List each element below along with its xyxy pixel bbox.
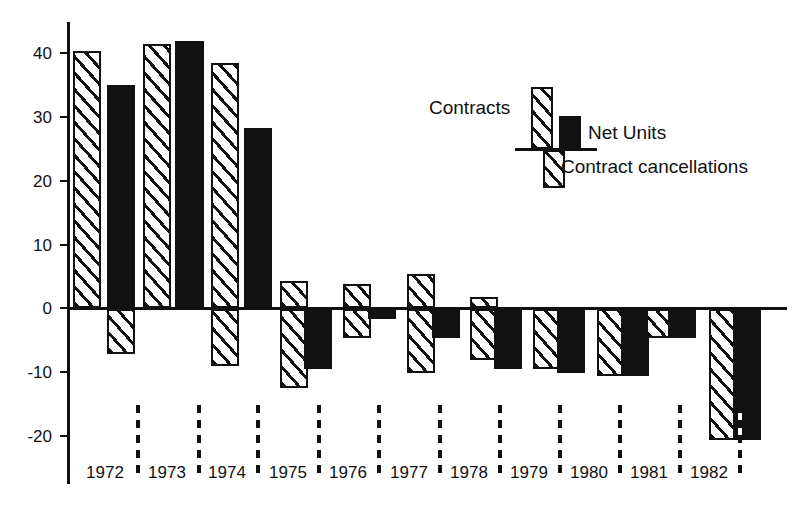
y-tick-mark-10 (60, 244, 69, 246)
bar-1973-net-units (175, 41, 204, 308)
bar-1981-net-units (668, 309, 696, 338)
legend-swatch-net-units (559, 116, 581, 149)
y-axis-line (67, 22, 70, 484)
x-tick-label-1973: 1973 (139, 464, 195, 481)
y-tick-mark-minus10 (60, 371, 69, 373)
x-tick-label-1982: 1982 (681, 464, 737, 481)
y-tick-mark-0 (60, 307, 69, 309)
bar-1978-contracts (470, 297, 498, 308)
bar-1978-net-units (494, 309, 522, 369)
y-tick-label-10: 10 (0, 237, 52, 254)
x-tick-label-1972: 1972 (77, 464, 133, 481)
y-tick-label-minus10: -10 (0, 364, 52, 381)
x-tick-label-1974: 1974 (199, 464, 255, 481)
x-tick-label-1977: 1977 (381, 464, 437, 481)
bar-1976-net-units (368, 309, 396, 319)
bar-1977-contracts (407, 274, 435, 308)
legend-label-cancellations: Contract cancellations (561, 157, 748, 177)
bar-1974-cancellations (211, 309, 239, 366)
bar-1979-net-units (557, 309, 585, 373)
bar-1976-contracts (343, 284, 371, 308)
year-separator (738, 405, 742, 477)
bar-1977-net-units (432, 309, 460, 338)
bar-1977-cancellations (407, 309, 435, 373)
legend-label-contracts: Contracts (429, 98, 510, 118)
y-tick-mark-20 (60, 180, 69, 182)
y-tick-mark-minus20 (60, 435, 69, 437)
legend-swatch-contracts (531, 87, 553, 149)
bar-1973-contracts (143, 44, 171, 308)
x-tick-label-1979: 1979 (501, 464, 557, 481)
bar-chart: 40 30 20 10 0 -10 -20 (0, 0, 812, 517)
y-tick-mark-40 (60, 52, 69, 54)
bar-1976-cancellations (343, 309, 371, 338)
bar-1972-net-units (107, 85, 135, 308)
legend-label-net-units: Net Units (588, 123, 666, 143)
x-tick-label-1978: 1978 (441, 464, 497, 481)
x-tick-label-1976: 1976 (320, 464, 376, 481)
bar-1974-contracts (211, 63, 239, 308)
bar-1972-cancellations (107, 309, 135, 354)
y-tick-mark-30 (60, 116, 69, 118)
bar-1975-contracts (280, 281, 308, 308)
bar-1975-net-units (304, 309, 332, 369)
y-tick-label-minus20: -20 (0, 428, 52, 445)
legend: Contracts Net Units Contract cancellatio… (430, 78, 812, 198)
y-tick-label-20: 20 (0, 173, 52, 190)
x-tick-label-1980: 1980 (561, 464, 617, 481)
bar-1972-contracts (73, 51, 101, 308)
bar-1974-net-units (244, 128, 272, 308)
y-tick-label-0: 0 (0, 300, 52, 317)
x-tick-label-1975: 1975 (260, 464, 316, 481)
bar-1980-net-units (621, 309, 649, 376)
x-tick-label-1981: 1981 (621, 464, 677, 481)
y-tick-label-40: 40 (0, 45, 52, 62)
y-tick-label-30: 30 (0, 109, 52, 126)
